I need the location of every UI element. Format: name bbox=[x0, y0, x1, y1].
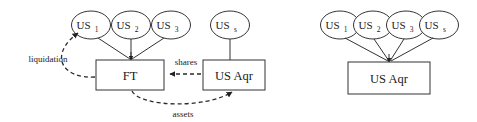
node-us2-label: US bbox=[116, 19, 130, 31]
node-us3-subscript: 3 bbox=[175, 25, 179, 34]
node-us1-label: US bbox=[76, 19, 90, 31]
edge-label-liquidation: liquidation bbox=[29, 54, 68, 64]
node-us3-after-subscript: 3 bbox=[410, 25, 414, 34]
node-us2-after-subscript: 2 bbox=[377, 25, 381, 34]
node-us2-subscript: 2 bbox=[135, 25, 139, 34]
node-us1-after-subscript: 1 bbox=[344, 25, 348, 34]
node-us-aqr-right-label: US Aqr bbox=[370, 72, 409, 86]
node-us-aqr-left-label: US Aqr bbox=[215, 69, 254, 83]
node-us-aqr-left: US Aqr bbox=[203, 60, 265, 90]
node-us-aqr-right: US Aqr bbox=[348, 62, 430, 94]
node-us1-after-label: US bbox=[325, 19, 339, 31]
node-us1-subscript: 1 bbox=[95, 25, 99, 34]
node-us3-after-label: US bbox=[391, 19, 405, 31]
node-us3: US 3 bbox=[152, 11, 191, 39]
node-uss-after-subscript: s bbox=[443, 25, 446, 34]
node-us2: US 2 bbox=[112, 11, 151, 39]
edge-us3-ft bbox=[132, 38, 164, 59]
diagram-figure: US 1 US 2 US 3 US s FT US Aqr bbox=[0, 0, 477, 122]
node-ft-label: FT bbox=[123, 69, 138, 83]
edge-label-shares: shares bbox=[175, 57, 198, 67]
node-us2-after-label: US bbox=[358, 19, 372, 31]
node-uss: US s bbox=[211, 11, 250, 39]
node-uss-after: US s bbox=[420, 11, 459, 39]
node-ft: FT bbox=[96, 60, 164, 90]
node-uss-label: US bbox=[215, 19, 229, 31]
diagram-canvas: US 1 US 2 US 3 US s FT US Aqr bbox=[0, 0, 477, 122]
edge-assets bbox=[132, 91, 232, 104]
edge-label-assets: assets bbox=[173, 109, 194, 119]
node-us3-label: US bbox=[156, 19, 170, 31]
node-uss-subscript: s bbox=[234, 25, 237, 34]
node-us1: US 1 bbox=[72, 11, 111, 39]
edge-us1-ft bbox=[98, 38, 130, 59]
node-uss-after-label: US bbox=[424, 19, 438, 31]
